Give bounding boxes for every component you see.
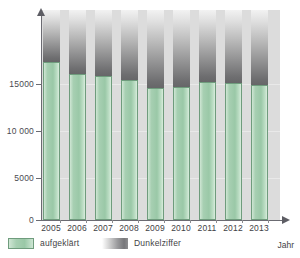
bar-aufgeklaert-2010 [173, 87, 190, 220]
bar-dunkelziffer-2009 [147, 10, 164, 88]
bar-dunkelziffer-2011 [199, 10, 216, 82]
bar-aufgeklaert-2006 [69, 74, 86, 220]
y-tick-10000 [36, 131, 41, 132]
legend-label-aufgeklaert: aufgeklärt [40, 238, 79, 248]
bar-aufgeklaert-2011 [199, 82, 216, 220]
y-tick-5000 [36, 178, 41, 179]
bar-dunkelziffer-2010 [173, 10, 190, 87]
bar-chart: 15000 10 000 5000 0 2005 2006 2007 2008 … [0, 0, 300, 258]
bar-group-2010 [173, 10, 190, 220]
bar-group-2005 [43, 10, 60, 220]
bar-dunkelziffer-2013 [251, 10, 268, 85]
bar-dunkelziffer-2008 [121, 10, 138, 80]
bar-aufgeklaert-2008 [121, 80, 138, 220]
bar-aufgeklaert-2005 [43, 62, 60, 220]
x-tick-label-2013: 2013 [244, 223, 274, 233]
bar-group-2012 [225, 10, 242, 220]
y-tick-label-5000: 5000 [14, 173, 34, 183]
y-tick-label-0: 0 [29, 215, 34, 225]
x-axis-title: Jahr [277, 240, 294, 250]
bar-aufgeklaert-2013 [251, 85, 268, 220]
y-axis-line [41, 14, 42, 221]
x-axis-line [41, 220, 283, 221]
bar-aufgeklaert-2009 [147, 88, 164, 220]
x-axis-arrow-icon [282, 216, 290, 224]
y-tick-label-15000: 15000 [9, 79, 34, 89]
legend-green-swatch-icon [8, 238, 34, 249]
legend-label-dunkelziffer: Dunkelziffer [134, 238, 181, 248]
legend-gradient-swatch-icon [102, 238, 128, 249]
y-tick-15000 [36, 84, 41, 85]
y-axis-arrow-icon [37, 8, 45, 16]
bar-dunkelziffer-2007 [95, 10, 112, 76]
bar-dunkelziffer-2012 [225, 10, 242, 83]
bar-group-2013 [251, 10, 268, 220]
bar-dunkelziffer-2006 [69, 10, 86, 74]
y-tick-label-10000: 10 000 [7, 126, 34, 136]
bar-group-2009 [147, 10, 164, 220]
bar-aufgeklaert-2007 [95, 76, 112, 220]
bar-aufgeklaert-2012 [225, 83, 242, 220]
bar-dunkelziffer-2005 [43, 10, 60, 62]
bars-layer [41, 10, 280, 220]
bar-group-2006 [69, 10, 86, 220]
bar-group-2007 [95, 10, 112, 220]
y-tick-0 [36, 220, 41, 221]
bar-group-2008 [121, 10, 138, 220]
bar-group-2011 [199, 10, 216, 220]
